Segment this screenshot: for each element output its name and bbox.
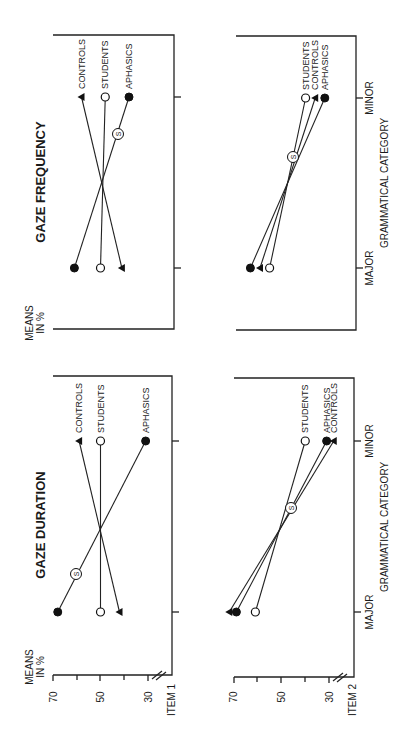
series-label-aphasics: APHASICS xyxy=(124,43,134,89)
series-label-controls: CONTROLS xyxy=(310,40,320,90)
controls-marker-icon xyxy=(75,437,82,445)
axis-break-mark xyxy=(156,672,166,680)
series-label-students: STUDENTS xyxy=(300,384,310,433)
y-tick-label-50: 50 xyxy=(95,691,106,703)
s-annotation-label: S xyxy=(73,571,80,576)
y-tick-label-70: 70 xyxy=(228,691,239,703)
students-marker-icon xyxy=(251,608,259,616)
panel-gaze-frequency-item2: STUDENTSCONTROLSAPHASICSS MAJOR MINOR GR… xyxy=(236,36,390,330)
s-annotation-label: S xyxy=(288,505,295,510)
y-tick-label-30: 30 xyxy=(143,691,154,703)
plot-frame xyxy=(236,36,356,330)
students-marker-icon xyxy=(302,94,310,102)
aphasics-marker-icon xyxy=(321,94,329,102)
aphasics-marker-icon xyxy=(246,264,254,272)
aphasics-marker-icon xyxy=(54,608,62,616)
panel-title: GAZE FREQUENCY xyxy=(33,121,48,243)
y-tick-label-30: 30 xyxy=(324,691,335,703)
rotated-line-chart-figure: CONTROLSSTUDENTSAPHASICSS GAZE DURATION … xyxy=(0,0,413,735)
panel-gaze-duration-item1: CONTROLSSTUDENTSAPHASICSS GAZE DURATION … xyxy=(24,376,179,716)
series-label-aphasics: APHASICS xyxy=(320,44,330,90)
x-category-minor: MINOR xyxy=(364,81,375,114)
y-axis-title-line1: MEANS xyxy=(24,305,35,341)
series-label-controls: CONTROLS xyxy=(329,383,339,433)
x-category-major: MAJOR xyxy=(364,251,375,286)
y-axis-title-line1: MEANS xyxy=(24,649,35,685)
students-marker-icon xyxy=(97,437,105,445)
students-marker-icon xyxy=(301,437,309,445)
x-axis-title: GRAMMATICAL CATEGORY xyxy=(379,462,390,593)
x-category-minor: MINOR xyxy=(364,424,375,457)
series-label-students: STUDENTS xyxy=(301,41,311,90)
y-axis-title-line2: IN % xyxy=(35,312,46,334)
series-group: STUDENTSAPHASICSCONTROLSS xyxy=(225,383,339,616)
students-marker-icon xyxy=(97,264,105,272)
aphasics-marker-icon xyxy=(142,437,150,445)
y-axis-title-line2: IN % xyxy=(35,656,46,678)
controls-marker-icon xyxy=(256,264,263,272)
series-label-controls: CONTROLS xyxy=(77,39,87,89)
controls-marker-icon xyxy=(330,437,337,445)
series-line-students xyxy=(255,441,305,612)
s-annotation-label: S xyxy=(115,131,122,136)
series-label-students: STUDENTS xyxy=(100,40,110,89)
plot-frame xyxy=(53,376,172,675)
x-category-major: MAJOR xyxy=(364,595,375,630)
panel-title: GAZE DURATION xyxy=(33,471,48,578)
series-group: CONTROLSSTUDENTSAPHASICSS xyxy=(70,39,134,272)
series-line-aphasics xyxy=(250,98,324,268)
controls-marker-icon xyxy=(225,608,232,616)
series-label-controls: CONTROLS xyxy=(74,383,84,433)
students-marker-icon xyxy=(97,608,105,616)
series-group: CONTROLSSTUDENTSAPHASICSS xyxy=(54,383,151,616)
s-annotation-label: S xyxy=(290,154,297,159)
aphasics-marker-icon xyxy=(232,608,240,616)
aphasics-marker-icon xyxy=(323,437,331,445)
item-label: ITEM 1 xyxy=(166,683,177,716)
students-marker-icon xyxy=(101,93,109,101)
x-axis-title: GRAMMATICAL CATEGORY xyxy=(379,118,390,249)
series-line-controls xyxy=(229,441,334,612)
students-marker-icon xyxy=(266,264,274,272)
chart-canvas: CONTROLSSTUDENTSAPHASICSS GAZE DURATION … xyxy=(0,0,413,735)
y-tick-label-70: 70 xyxy=(48,691,59,703)
panel-gaze-duration-item2: STUDENTSAPHASICSCONTROLSS 70 50 30 ITEM … xyxy=(225,378,390,716)
series-line-controls xyxy=(79,441,119,612)
y-tick-label-50: 50 xyxy=(276,691,287,703)
axis-break-mark xyxy=(337,674,347,682)
series-group: STUDENTSCONTROLSAPHASICSS xyxy=(246,40,329,272)
plot-frame xyxy=(53,35,174,329)
panel-gaze-frequency-item1: CONTROLSSTUDENTSAPHASICSS GAZE FREQUENCY… xyxy=(24,35,181,341)
series-line-aphasics xyxy=(58,441,146,612)
aphasics-marker-icon xyxy=(70,264,78,272)
aphasics-marker-icon xyxy=(125,93,133,101)
series-label-aphasics: APHASICS xyxy=(141,387,151,433)
series-label-students: STUDENTS xyxy=(96,384,106,433)
controls-marker-icon xyxy=(78,93,85,101)
item-label: ITEM 2 xyxy=(347,683,358,716)
